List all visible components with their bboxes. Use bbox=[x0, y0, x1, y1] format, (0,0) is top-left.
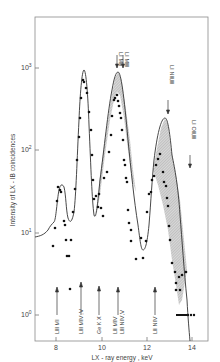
bottom-arrows bbox=[56, 282, 157, 315]
svg-text:103: 103 bbox=[21, 62, 32, 71]
svg-text:100: 100 bbox=[21, 309, 32, 318]
y-axis bbox=[35, 68, 39, 315]
x-axis-title: LX - ray energy , keV bbox=[91, 354, 153, 362]
top-arrows bbox=[116, 55, 192, 168]
annotation-ge-kx: Ge K X bbox=[96, 316, 102, 334]
shaded-band-l1m bbox=[96, 72, 136, 218]
chart: 103 102 101 100 8 10 12 14 LX - ray ener… bbox=[0, 0, 220, 362]
annotation-l2n4: LⅡ NⅣ bbox=[152, 316, 158, 334]
svg-text:8: 8 bbox=[54, 344, 58, 351]
top-annotations: LⅠ MⅡ LⅠ MⅢ LⅠ NⅡ,Ⅲ LⅠ OⅡ,Ⅲ bbox=[118, 52, 197, 139]
svg-text:10: 10 bbox=[98, 344, 106, 351]
annotation-l1m2: LⅠ MⅡ bbox=[118, 52, 124, 66]
svg-text:102: 102 bbox=[21, 144, 32, 153]
svg-text:101: 101 bbox=[21, 227, 32, 236]
annotation-l1n23: LⅠ NⅡ,Ⅲ bbox=[169, 65, 175, 84]
shaded-band-l1n bbox=[153, 118, 187, 305]
y-axis-title: Intensity of LX - IB coincidences bbox=[9, 133, 17, 226]
annotation-l3m1: LⅢ MⅠ bbox=[54, 319, 60, 334]
svg-text:12: 12 bbox=[143, 344, 151, 351]
y-tick-labels: 103 102 101 100 bbox=[21, 62, 32, 318]
annotation-l2m4: LⅡ MⅣ bbox=[112, 316, 118, 334]
x-axis bbox=[56, 337, 192, 341]
annotation-l3n45: LⅢ NⅣ,Ⅴ bbox=[119, 309, 125, 334]
x-tick-labels: 8 10 12 14 bbox=[54, 344, 196, 351]
background-points bbox=[176, 314, 195, 316]
annotation-l1m3: LⅠ MⅢ bbox=[124, 52, 130, 67]
annotation-l3m45: LⅢ MⅣ,Ⅴ bbox=[78, 308, 84, 334]
bottom-annotations: LⅢ MⅠ LⅢ MⅣ,Ⅴ Ge K X LⅡ MⅣ LⅢ NⅣ,Ⅴ LⅡ NⅣ bbox=[54, 308, 158, 334]
annotation-l1o23: LⅠ OⅡ,Ⅲ bbox=[191, 120, 197, 139]
svg-text:14: 14 bbox=[188, 344, 196, 351]
